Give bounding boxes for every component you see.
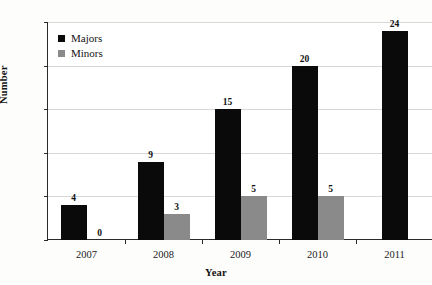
x-axis-tick-label: 2007 xyxy=(48,249,125,260)
legend-label-majors: Majors xyxy=(71,31,102,46)
chart-legend: Majors Minors xyxy=(58,31,103,61)
category-group: 2052010 xyxy=(279,22,356,240)
bar-majors: 15 xyxy=(215,109,241,240)
x-axis-tick-label: 2011 xyxy=(356,249,432,260)
y-axis-title: Number xyxy=(0,65,9,104)
bar-group: 93 xyxy=(125,22,202,240)
bar-value-label: 20 xyxy=(300,54,310,64)
bar-value-label: 15 xyxy=(223,97,233,107)
plot-area: 0510152025402007932008155200920520102420… xyxy=(47,22,432,240)
x-axis-tick-label: 2010 xyxy=(279,249,356,260)
category-group: 242011 xyxy=(356,22,432,240)
bar-majors: 20 xyxy=(292,66,318,240)
x-axis-tick-mark xyxy=(125,240,126,244)
bar-value-label: 0 xyxy=(97,228,102,238)
bar-minors: 5 xyxy=(318,196,344,240)
bar-minors: 3 xyxy=(164,214,190,240)
legend-label-minors: Minors xyxy=(71,46,103,61)
bar-majors: 24 xyxy=(382,31,408,240)
chart-title-cropped xyxy=(0,0,432,4)
x-axis-tick-mark xyxy=(279,240,280,244)
y-axis-tick-mark xyxy=(44,240,48,241)
bar-group: 24 xyxy=(356,22,432,240)
legend-swatch-majors-icon xyxy=(58,35,65,42)
category-group: 932008 xyxy=(125,22,202,240)
x-axis-tick-label: 2008 xyxy=(125,249,202,260)
bar-majors: 4 xyxy=(61,205,87,240)
bar-value-label: 4 xyxy=(71,193,76,203)
bar-value-label: 5 xyxy=(251,184,256,194)
bar-group: 155 xyxy=(202,22,279,240)
bar-value-label: 24 xyxy=(390,19,400,29)
x-axis-tick-label: 2009 xyxy=(202,249,279,260)
bar-value-label: 3 xyxy=(174,202,179,212)
legend-item-minors: Minors xyxy=(58,46,103,61)
bar-group: 205 xyxy=(279,22,356,240)
legend-swatch-minors-icon xyxy=(58,50,65,57)
bar-majors: 9 xyxy=(138,162,164,240)
category-group: 1552009 xyxy=(202,22,279,240)
bar-value-label: 5 xyxy=(328,184,333,194)
bar-value-label: 9 xyxy=(148,150,153,160)
bar-chart: Number 051015202540200793200815520092052… xyxy=(0,0,432,285)
legend-item-majors: Majors xyxy=(58,31,103,46)
x-axis-tick-mark xyxy=(356,240,357,244)
x-axis-title: Year xyxy=(0,267,432,278)
bar-minors: 5 xyxy=(241,196,267,240)
x-axis-tick-mark xyxy=(202,240,203,244)
